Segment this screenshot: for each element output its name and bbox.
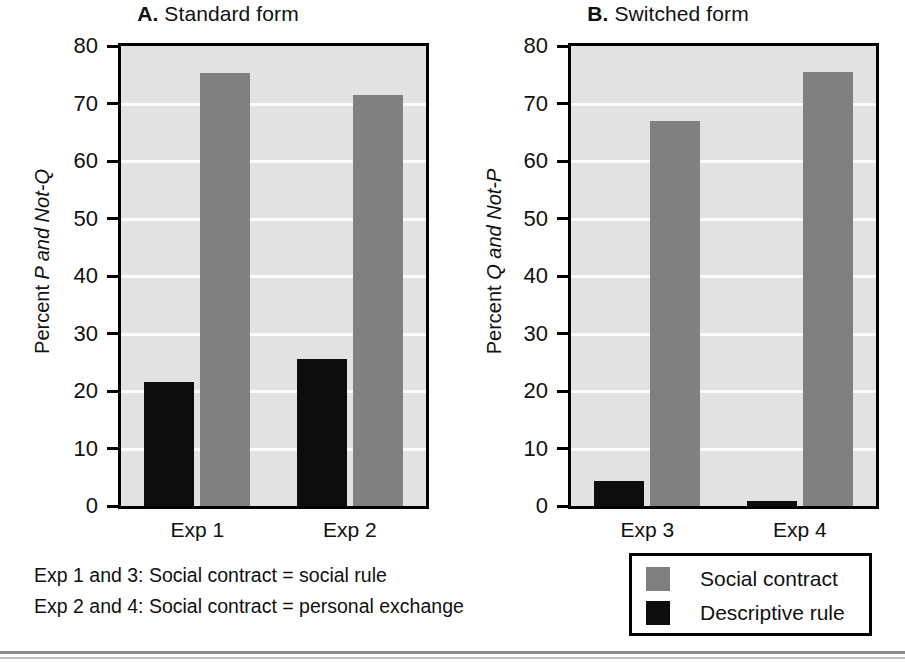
x-tick-label-exp-1: Exp 1: [137, 518, 257, 542]
y-tick-80: [107, 45, 119, 48]
y-tick-label-20: 20: [496, 380, 548, 402]
y-tick-60: [107, 160, 119, 163]
y-tick-label-30: 30: [46, 323, 98, 345]
y-tick-10: [557, 447, 569, 450]
y-tick-40: [557, 275, 569, 278]
y-tick-20: [107, 390, 119, 393]
chart-notes: Exp 1 and 3: Social contract = social ru…: [34, 560, 464, 622]
y-tick-label-30: 30: [496, 323, 548, 345]
footer-rule-secondary: [0, 657, 905, 659]
footer-rule: [0, 651, 905, 654]
note-line-1: Exp 1 and 3: Social contract = social ru…: [34, 560, 464, 591]
x-tick-label-exp-4: Exp 4: [740, 518, 860, 542]
legend-swatch-descriptive-rule-icon: [646, 601, 670, 625]
bar-exp-2-descriptive-rule: [297, 359, 347, 506]
y-tick-label-10: 10: [46, 438, 98, 460]
panel-b-title: B. Switched form: [442, 2, 894, 26]
panel-a-plot-area: [118, 43, 429, 509]
legend-swatch-social-contract-icon: [646, 567, 670, 591]
panel-a-letter: A.: [137, 2, 158, 25]
note-line-2: Exp 2 and 4: Social contract = personal …: [34, 591, 464, 622]
y-tick-70: [557, 102, 569, 105]
y-tick-50: [107, 217, 119, 220]
panel-b-plot-area: [568, 43, 879, 509]
y-tick-0: [557, 505, 569, 508]
y-tick-40: [107, 275, 119, 278]
y-tick-label-70: 70: [46, 93, 98, 115]
chart-legend: Social contract Descriptive rule: [629, 553, 872, 636]
y-tick-label-70: 70: [496, 93, 548, 115]
y-tick-label-40: 40: [46, 265, 98, 287]
panel-a-title-text: Standard form: [158, 2, 298, 25]
x-tick-label-exp-2: Exp 2: [290, 518, 410, 542]
y-tick-30: [107, 332, 119, 335]
y-tick-label-0: 0: [46, 495, 98, 517]
figure-bar-chart-pair: A. Standard form Percent P and Not-Q Exp…: [0, 0, 905, 666]
panel-a: A. Standard form Percent P and Not-Q Exp…: [0, 0, 452, 545]
bar-exp-1-descriptive-rule: [144, 382, 194, 506]
panel-b-title-text: Switched form: [608, 2, 748, 25]
y-tick-label-40: 40: [496, 265, 548, 287]
y-tick-80: [557, 45, 569, 48]
y-tick-20: [557, 390, 569, 393]
panel-b: B. Switched form Percent Q and Not-P Exp…: [452, 0, 904, 545]
y-tick-label-50: 50: [496, 208, 548, 230]
y-tick-label-60: 60: [496, 150, 548, 172]
legend-label-descriptive-rule: Descriptive rule: [700, 601, 845, 625]
y-tick-label-50: 50: [46, 208, 98, 230]
y-tick-label-20: 20: [46, 380, 98, 402]
bar-exp-4-social-contract: [803, 72, 853, 506]
bar-exp-3-descriptive-rule: [594, 481, 644, 506]
y-tick-60: [557, 160, 569, 163]
y-tick-label-60: 60: [46, 150, 98, 172]
bar-exp-4-descriptive-rule: [747, 501, 797, 506]
panel-b-letter: B.: [587, 2, 608, 25]
legend-item-descriptive-rule: Descriptive rule: [646, 596, 845, 630]
legend-item-social-contract: Social contract: [646, 562, 838, 596]
y-tick-10: [107, 447, 119, 450]
y-tick-30: [557, 332, 569, 335]
legend-label-social-contract: Social contract: [700, 567, 838, 591]
x-tick-label-exp-3: Exp 3: [587, 518, 707, 542]
bar-exp-2-social-contract: [353, 95, 403, 506]
bar-exp-1-social-contract: [200, 73, 250, 506]
y-tick-50: [557, 217, 569, 220]
y-tick-0: [107, 505, 119, 508]
y-tick-label-80: 80: [496, 35, 548, 57]
y-tick-label-0: 0: [496, 495, 548, 517]
panel-a-title: A. Standard form: [0, 2, 444, 26]
y-tick-label-10: 10: [496, 438, 548, 460]
bar-exp-3-social-contract: [650, 121, 700, 506]
y-tick-label-80: 80: [46, 35, 98, 57]
y-tick-70: [107, 102, 119, 105]
